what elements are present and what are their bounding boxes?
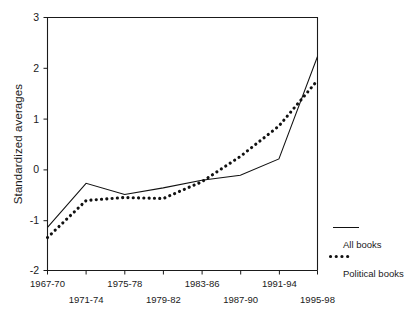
- x-tick-label: 1983-86: [185, 278, 220, 289]
- y-tick-label: -2: [30, 264, 39, 276]
- y-tick-1: 1: [33, 113, 47, 125]
- y-tick-neg2: -2: [30, 264, 48, 276]
- x-tick-label: 1979-82: [146, 294, 181, 305]
- legend-label-all-books: All books: [343, 239, 382, 250]
- x-tick-label: 1995-98: [300, 294, 335, 305]
- x-axis-ticks: [48, 271, 318, 275]
- x-tick-label: 1971-74: [69, 294, 104, 305]
- y-tick-label: 2: [33, 62, 39, 74]
- y-tick-label: -1: [30, 214, 39, 226]
- series-group: [48, 57, 318, 238]
- plot-axes: [47, 17, 318, 271]
- x-tick-label: 1975-78: [107, 278, 142, 289]
- y-tick-label: 0: [33, 163, 39, 175]
- y-axis-title: Standardized averages: [12, 84, 24, 205]
- x-axis-labels-row1: 1967-70 1975-78 1983-86 1991-94: [30, 278, 297, 289]
- x-axis-labels-row2: 1971-74 1979-82 1987-90 1995-98: [69, 294, 335, 305]
- x-tick-label: 1991-94: [262, 278, 297, 289]
- y-tick-0: 0: [33, 163, 47, 175]
- series-line-political-books: [48, 80, 318, 237]
- y-tick-neg1: -1: [30, 214, 48, 226]
- y-tick-3: 3: [33, 11, 47, 23]
- y-tick-label: 1: [33, 113, 39, 125]
- y-tick-label: 3: [33, 11, 39, 23]
- y-axis-title-text: Standardized averages: [12, 84, 24, 205]
- chart-legend: All books Political books: [331, 228, 404, 280]
- chart-canvas: Standardized averages 3 2 1: [0, 0, 416, 331]
- y-axis-ticks: 3 2 1 0 -1 -2: [30, 11, 48, 276]
- legend-label-political-books: Political books: [343, 268, 404, 279]
- x-tick-label: 1967-70: [30, 278, 65, 289]
- y-tick-2: 2: [33, 62, 47, 74]
- series-line-all-books: [48, 57, 318, 228]
- chart-figure: Standardized averages 3 2 1: [0, 0, 416, 331]
- x-tick-label: 1987-90: [223, 294, 258, 305]
